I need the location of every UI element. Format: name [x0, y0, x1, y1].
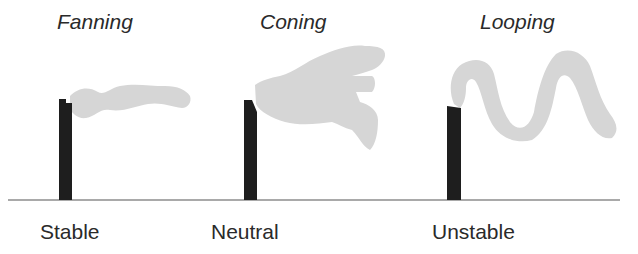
- neutral-label: Neutral: [211, 220, 279, 244]
- fanning-title: Fanning: [57, 10, 133, 34]
- fanning-stack: [59, 99, 72, 200]
- fanning-plume: [70, 85, 191, 118]
- unstable-label: Unstable: [432, 220, 515, 244]
- fanning-panel: [59, 85, 191, 200]
- looping-panel: [447, 50, 616, 200]
- coning-stack: [244, 100, 257, 200]
- looping-title: Looping: [480, 10, 555, 34]
- coning-title: Coning: [260, 10, 327, 34]
- plume-diagram: [0, 0, 638, 254]
- stable-label: Stable: [40, 220, 100, 244]
- looping-plume: [451, 50, 617, 141]
- coning-panel: [244, 46, 385, 200]
- coning-plume: [255, 46, 385, 150]
- looping-stack: [447, 106, 461, 200]
